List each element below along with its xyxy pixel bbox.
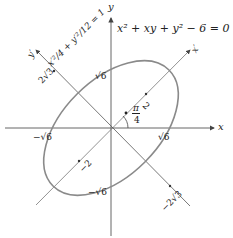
angle-point — [125, 112, 128, 115]
ellipse-figure: x y x′ y′ x² + xy + y² − 6 = 0 x′²/4 + y… — [0, 0, 233, 238]
tick-x-pos: √6 — [158, 133, 169, 142]
angle-label-num: π — [132, 104, 140, 114]
tick-x-neg: −√6 — [33, 133, 52, 142]
x-axis-label: x — [218, 122, 224, 132]
ellipse-plot — [0, 0, 233, 238]
tick-y-pos: √6 — [95, 72, 106, 81]
equation: x² + xy + y² − 6 = 0 — [117, 23, 230, 34]
angle-arc — [123, 116, 128, 128]
tick-y-neg: −√6 — [88, 188, 107, 197]
y-axis-label: y — [108, 2, 114, 12]
angle-label-den: 4 — [134, 116, 140, 125]
